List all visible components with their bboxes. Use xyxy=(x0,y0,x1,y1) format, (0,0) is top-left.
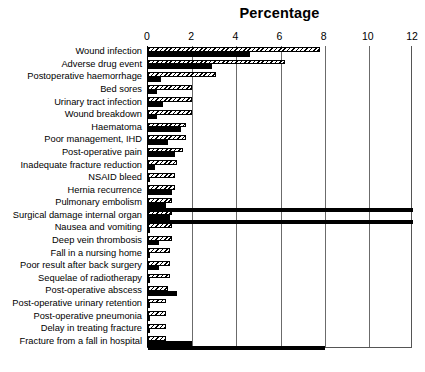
bar-solid xyxy=(148,52,250,57)
y-axis-category-labels: Wound infectionAdverse drug eventPostope… xyxy=(0,46,145,348)
x-tick-label: 6 xyxy=(277,30,283,42)
y-axis-label: Bed sores xyxy=(100,85,142,94)
bar-hatched xyxy=(148,248,170,253)
x-axis-tick-labels: 024681012 xyxy=(0,30,425,44)
y-axis-label: Poor management, IHD xyxy=(44,135,142,144)
x-tick-label: 10 xyxy=(362,30,374,42)
bar-solid xyxy=(148,329,150,334)
y-axis-label: Urinary tract infection xyxy=(54,98,142,107)
gridline xyxy=(369,46,370,347)
x-tick-label: 0 xyxy=(144,30,150,42)
bar-hatched xyxy=(148,324,166,329)
bar-solid xyxy=(148,115,157,120)
bar-solid xyxy=(148,140,168,145)
bar-solid xyxy=(148,278,150,283)
y-axis-label: Sequelae of radiotherapy xyxy=(38,274,142,283)
bar-hatched xyxy=(148,299,166,304)
y-axis-label: Pulmonary embolism xyxy=(55,198,142,207)
plot-area xyxy=(147,46,412,348)
y-axis-label: Deep vein thrombosis xyxy=(52,236,142,245)
bar-hatched xyxy=(148,311,166,316)
y-axis-label: Wound infection xyxy=(76,47,143,56)
gridline xyxy=(192,46,193,347)
x-tick-label: 4 xyxy=(232,30,238,42)
bar-solid xyxy=(148,291,177,296)
y-axis-label: Inadequate fracture reduction xyxy=(21,161,142,170)
bar-solid xyxy=(148,165,155,170)
x-tick-label: 12 xyxy=(406,30,418,42)
bar-solid xyxy=(148,127,181,132)
bar-solid xyxy=(148,266,159,271)
y-axis-label: Surgical damage internal organ xyxy=(13,211,142,220)
x-tick-label: 8 xyxy=(321,30,327,42)
chart-title: Percentage xyxy=(147,5,412,21)
y-axis-label: Post-operative pneumonia xyxy=(33,312,142,321)
bar-solid xyxy=(148,228,150,233)
bar-solid xyxy=(148,178,150,183)
y-axis-label: NSAID bleed xyxy=(88,173,142,182)
bar-solid xyxy=(148,77,161,82)
bar-solid xyxy=(148,241,159,246)
bar-hatched xyxy=(148,173,175,178)
bar-solid xyxy=(148,316,150,321)
y-axis-label: Postoperative haemorrhage xyxy=(27,72,142,81)
gridline xyxy=(236,46,237,347)
y-axis-label: Fracture from a fall in hospital xyxy=(20,337,142,346)
y-axis-label: Post-operative urinary retention xyxy=(12,299,142,308)
x-tick-label: 2 xyxy=(188,30,194,42)
y-axis-label: Poor result after back surgery xyxy=(20,261,142,270)
bar-solid xyxy=(148,102,163,107)
gridline xyxy=(325,46,326,347)
gridline xyxy=(281,46,282,347)
y-axis-label: Delay in treating fracture xyxy=(41,324,142,333)
y-axis-label: Hernia recurrence xyxy=(68,186,142,195)
y-axis-label: Wound breakdown xyxy=(65,110,142,119)
section-separator xyxy=(148,208,413,212)
section-separator xyxy=(148,220,413,224)
y-axis-label: Post-operative pain xyxy=(62,148,142,157)
bar-solid xyxy=(148,90,157,95)
bar-hatched xyxy=(148,274,170,279)
bar-solid xyxy=(148,152,175,157)
bar-solid xyxy=(148,253,150,258)
y-axis-label: Fall in a nursing home xyxy=(51,249,142,258)
bar-solid xyxy=(148,190,172,195)
bar-solid xyxy=(148,64,212,69)
bar-chart: Percentage 024681012 Wound infectionAdve… xyxy=(0,0,425,372)
bar-solid xyxy=(148,303,150,308)
y-axis-label: Adverse drug event xyxy=(61,60,142,69)
y-axis-label: Nausea and vomiting xyxy=(55,223,142,232)
section-separator xyxy=(148,346,325,350)
y-axis-label: Haematoma xyxy=(91,123,142,132)
y-axis-label: Post-operative abscess xyxy=(45,286,142,295)
